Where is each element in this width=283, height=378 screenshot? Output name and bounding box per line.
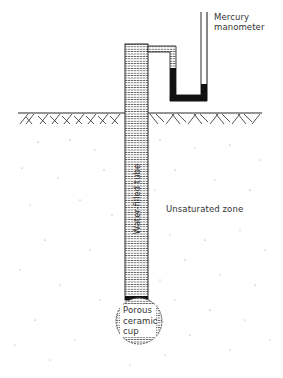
cup-label: Porous ceramic cup: [123, 305, 158, 337]
cup-label-line1: Porous: [123, 305, 158, 316]
zone-label: Unsaturated zone: [166, 204, 243, 214]
manometer-label-line1: Mercury: [214, 12, 265, 22]
tube-label: Water-filled tube: [132, 160, 142, 238]
manometer-label-line2: manometer: [214, 22, 265, 32]
cup-label-line2: ceramic: [123, 316, 158, 327]
manometer-label: Mercury manometer: [214, 12, 265, 32]
cup-label-line3: cup: [123, 326, 158, 337]
